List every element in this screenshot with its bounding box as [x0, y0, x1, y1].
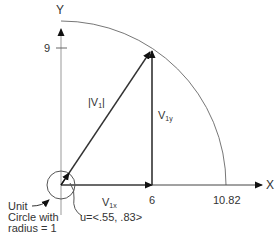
v1x-label: V1x: [102, 196, 117, 212]
x-tick-10-82-label: 10.82: [213, 194, 241, 206]
magnitude-arc: [61, 21, 226, 185]
unit-vector-u: [61, 173, 69, 185]
v1-magnitude-label: |V1|: [88, 96, 105, 112]
y-tick-label: 9: [44, 42, 50, 54]
unit-vector-label: u=<.55, .83>: [80, 211, 142, 223]
v1y-label: V1y: [158, 109, 173, 125]
x-axis-label: X: [266, 179, 274, 191]
unit-circle-label-line3: radius = 1: [8, 222, 57, 234]
x-tick-6-label: 6: [149, 194, 155, 206]
v1-vector: [61, 52, 150, 185]
y-axis-label: Y: [56, 4, 64, 16]
unit-circle-pointer: [32, 200, 49, 206]
